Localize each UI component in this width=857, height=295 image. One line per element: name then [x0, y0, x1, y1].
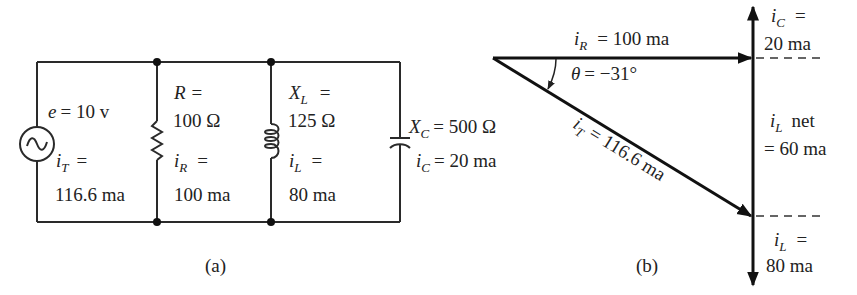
figure-canvas: e= 10 v iT= 116.6 ma R= 100 Ω iR= 100 ma… [0, 0, 857, 295]
inductor-reactance-value: 125 Ω [288, 110, 335, 131]
resistor-current-value: 100 ma [174, 184, 231, 205]
caption-a: (a) [205, 255, 226, 277]
il-label: iL= [774, 229, 807, 254]
inductor-reactance-label: XL= [288, 82, 331, 107]
source-current-value: 116.6 ma [55, 184, 126, 205]
ac-source-icon [20, 127, 54, 161]
il-net-value: = 60 ma [764, 138, 827, 159]
il-value: 80 ma [766, 255, 814, 276]
phasor-diagram: iR= 100 ma θ= −31° iT= 116.6 ma iC= 20 m… [493, 5, 827, 285]
it-label: iT= 116.6 ma [568, 113, 670, 189]
source-current-label: iT= [56, 150, 87, 175]
junction-dot [153, 58, 161, 66]
resistor-icon [152, 121, 162, 160]
theta-label: θ= −31° [571, 63, 637, 84]
ic-label: iC= [771, 5, 806, 30]
il-net-label: iLnet [770, 110, 815, 135]
inductor-current-value: 80 ma [289, 184, 337, 205]
junction-dot [153, 218, 161, 226]
inductor-current-label: iL= [289, 150, 322, 175]
theta-angle-arc-icon [548, 59, 556, 89]
caption-b: (b) [636, 255, 658, 277]
inductor-icon [265, 124, 279, 158]
circuit-diagram: e= 10 v iT= 116.6 ma R= 100 Ω iR= 100 ma… [20, 58, 497, 277]
capacitor-reactance-label: XC= 500 Ω [408, 116, 496, 141]
source-voltage-label: e= 10 v [48, 101, 110, 122]
ic-value: 20 ma [764, 33, 812, 54]
ir-label: iR= 100 ma [574, 28, 670, 53]
junction-dot [267, 218, 275, 226]
resistor-current-label: iR= [174, 150, 208, 175]
junction-dot [267, 58, 275, 66]
resistor-symbol-label: R= [173, 82, 202, 103]
capacitor-current-label: iC= 20 ma [416, 150, 497, 175]
resistor-value: 100 Ω [173, 110, 220, 131]
